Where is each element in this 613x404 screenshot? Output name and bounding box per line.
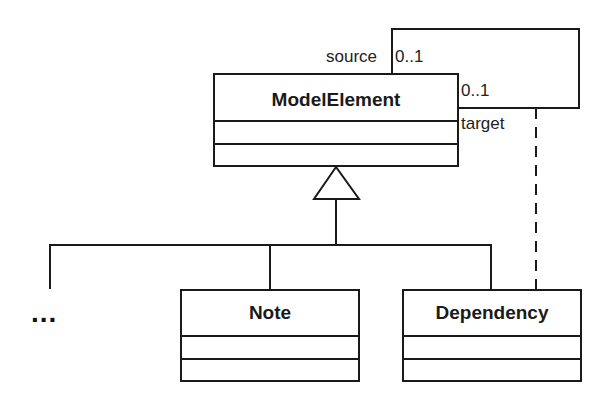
operations-divider <box>404 358 580 360</box>
class-name-note: Note <box>182 302 358 324</box>
class-name-dependency: Dependency <box>404 302 580 324</box>
operations-divider <box>182 358 358 360</box>
generalization-triangle-icon <box>314 167 359 199</box>
class-dependency[interactable]: Dependency <box>402 289 582 382</box>
more-subclasses-ellipsis: ... <box>31 297 57 329</box>
target-role-label: target <box>461 114 504 134</box>
attributes-divider <box>182 335 358 337</box>
source-role-label: source <box>326 47 377 67</box>
class-model-element[interactable]: ModelElement <box>213 73 459 167</box>
operations-divider <box>215 143 457 145</box>
source-multiplicity-label: 0..1 <box>395 47 423 67</box>
target-multiplicity-label: 0..1 <box>461 81 489 101</box>
attributes-divider <box>404 335 580 337</box>
class-name-model-element: ModelElement <box>215 89 457 111</box>
attributes-divider <box>215 120 457 122</box>
class-note[interactable]: Note <box>180 289 360 382</box>
